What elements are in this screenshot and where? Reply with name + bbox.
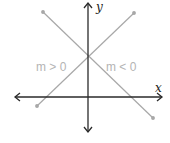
y-axis — [84, 3, 92, 132]
y-axis-label: y — [96, 1, 103, 13]
positive-slope-label: m > 0 — [36, 61, 66, 73]
slope-diagram — [0, 0, 170, 143]
negative-slope-label: m < 0 — [106, 61, 136, 73]
x-axis-label: x — [155, 82, 162, 94]
